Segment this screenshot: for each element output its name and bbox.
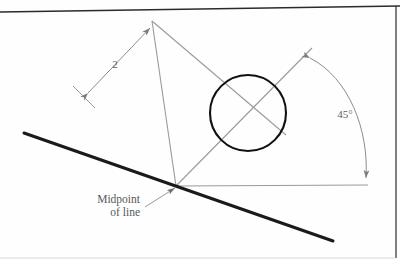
dimension-label-2: 2 [112, 58, 118, 70]
page-background [0, 0, 400, 261]
diagram-canvas: 2 45° Midpoint of line [0, 0, 400, 261]
technical-diagram: 2 45° Midpoint of line [0, 0, 400, 261]
midpoint-label-line-2: of line [110, 206, 140, 218]
midpoint-label-line-1: Midpoint [97, 193, 141, 206]
angle-label-45: 45° [337, 108, 352, 120]
